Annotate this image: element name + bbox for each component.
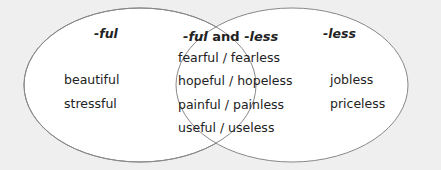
intersection-title-and: and [208,29,244,44]
right-title: -less [323,26,356,41]
intersection-item-4: useful / useless [178,120,274,135]
intersection-item-1: fearful / fearless [178,50,280,65]
intersection-title: -ful and -less [183,29,278,44]
left-title: -ful [94,26,118,41]
intersection-title-less: -less [244,29,278,44]
intersection-item-2: hopeful / hopeless [178,73,293,88]
intersection-item-3: painful / painless [178,97,284,112]
left-item-2: stressful [64,96,117,111]
intersection-title-ful: -ful [183,29,208,44]
left-item-1: beautiful [64,72,119,87]
right-item-2: priceless [330,96,385,111]
right-item-1: jobless [330,72,373,87]
